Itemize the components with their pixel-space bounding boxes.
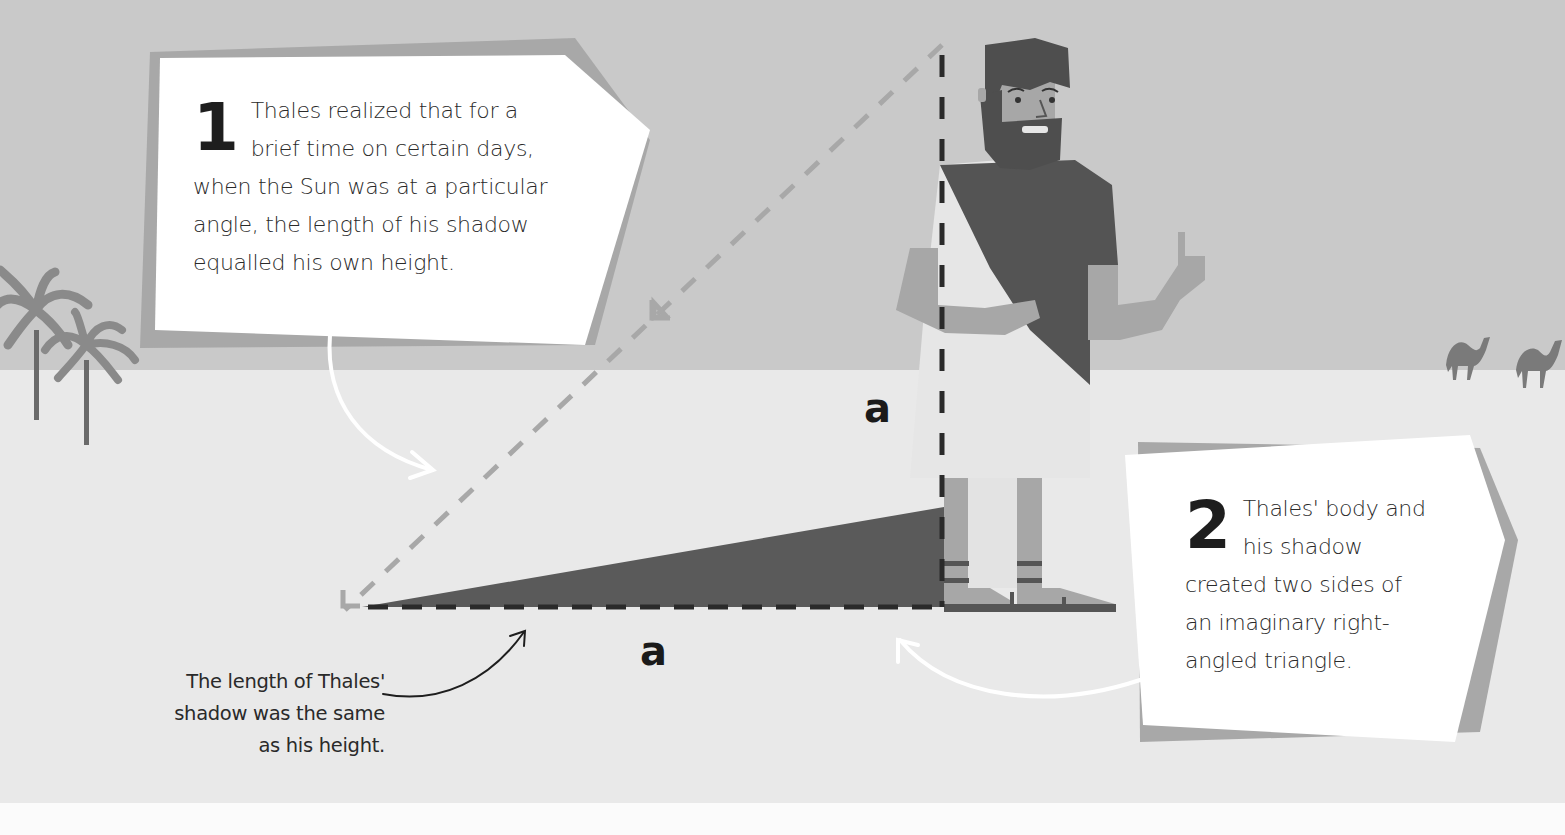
callout-line: when the Sun was at a particular [193,168,593,206]
callout-line: Thales realized that for a [193,92,593,130]
shadow-triangle [362,507,944,607]
callout-2-text: 2 Thales' body and his shadow created tw… [1185,490,1475,680]
step-number: 2 [1185,496,1231,556]
note-line: shadow was the same [140,698,385,730]
shadow-length-label: a [640,628,667,674]
callout-line: created two sides of [1185,566,1475,604]
callout-line: brief time on certain days, [193,130,593,168]
arrow-icon [898,640,1140,696]
callout-line: equalled his own height. [193,244,593,282]
callout-line: angle, the length of his shadow [193,206,593,244]
height-label: a [864,385,891,431]
palm-tree-icon [0,270,135,445]
illustration-scene: 1 Thales realized that for a brief time … [0,0,1565,835]
arrow-icon [330,335,433,478]
callout-line: an imaginary right- [1185,604,1475,642]
note-line: The length of Thales' [140,666,385,698]
shadow-note: The length of Thales' shadow was the sam… [140,666,385,762]
camel-icon [1446,337,1562,388]
note-line: as his height. [140,730,385,762]
step-number: 1 [193,98,239,158]
callout-line: angled triangle. [1185,642,1475,680]
callout-1-text: 1 Thales realized that for a brief time … [193,92,593,282]
arrow-icon [383,631,525,697]
